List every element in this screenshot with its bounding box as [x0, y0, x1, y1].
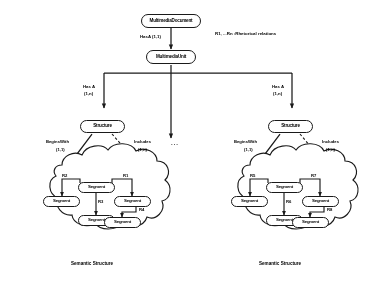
- left-cloud-segment-far[interactable]: Segment: [104, 217, 141, 228]
- right-cloud-segment-left[interactable]: Segment: [231, 196, 268, 207]
- left-cloud-relation-r2: R2: [62, 174, 67, 178]
- left-cloud-relation-r1: R1: [123, 174, 128, 178]
- right-cloud-caption: Semantic Structure: [259, 262, 301, 267]
- middle-ellipsis: ...: [171, 140, 179, 146]
- left-cloud-segment-right[interactable]: Segment: [114, 196, 151, 207]
- label-includes-left-name: Includes: [134, 140, 151, 144]
- diagram-canvas: MultimediaDocument MultimediaUnit Struct…: [0, 0, 377, 287]
- label-hasa-left-card: (1,n): [84, 92, 93, 97]
- label-includes-right-card: (1,n): [326, 148, 335, 152]
- right-cloud-relation-r5: R5: [250, 174, 255, 178]
- label-includes-left-card: (1,n): [138, 148, 147, 152]
- label-beginswith-right-name: BeginsWith: [234, 140, 257, 144]
- entity-structure-right[interactable]: Structure: [268, 120, 313, 133]
- left-cloud-segment-left[interactable]: Segment: [43, 196, 80, 207]
- legend-rhetorical-relations: R1, ...Rn :Rhetorical relations: [215, 32, 276, 37]
- label-includes-right-name: Includes: [322, 140, 339, 144]
- left-cloud-relation-r4: R4: [139, 208, 144, 212]
- right-cloud-relation-r6: R6: [286, 200, 291, 204]
- label-hasa-left-name: Has A: [83, 85, 95, 90]
- label-hasa-right-name: Has A: [272, 85, 284, 90]
- label-beginswith-right-card: (1,1): [244, 148, 253, 152]
- entity-structure-left[interactable]: Structure: [80, 120, 125, 133]
- right-cloud-relation-r7: R7: [311, 174, 316, 178]
- right-cloud-segment-root[interactable]: Segment: [266, 182, 303, 193]
- label-hasa-top: HasA (1,1): [140, 35, 161, 40]
- right-cloud-segment-far[interactable]: Segment: [292, 217, 329, 228]
- left-cloud-caption: Semantic Structure: [71, 262, 113, 267]
- left-cloud-segment-root[interactable]: Segment: [78, 182, 115, 193]
- entity-multimedia-document[interactable]: MultimediaDocument: [141, 14, 201, 28]
- label-hasa-right-card: (1,n): [273, 92, 282, 97]
- entity-multimedia-unit[interactable]: MultimediaUnit: [146, 50, 196, 64]
- right-cloud-relation-r8: R8: [327, 208, 332, 212]
- right-cloud-segment-right[interactable]: Segment: [302, 196, 339, 207]
- label-beginswith-left-name: BeginsWith: [46, 140, 69, 144]
- label-beginswith-left-card: (1,1): [56, 148, 65, 152]
- left-cloud-relation-r3: R3: [98, 200, 103, 204]
